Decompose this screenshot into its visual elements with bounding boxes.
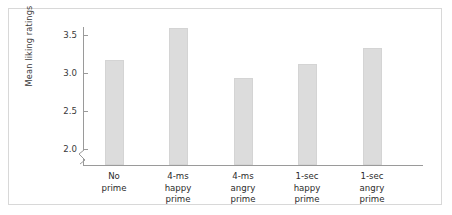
x-axis-line <box>83 165 423 166</box>
x-category-line: prime <box>145 194 211 206</box>
y-tick-mark-2-0 <box>83 149 88 150</box>
x-category-label-4ms-angry-prime: 4-ms angry prime <box>210 171 276 206</box>
bar-4ms-happy-prime[interactable] <box>169 28 188 165</box>
bar-1sec-happy-prime[interactable] <box>298 64 317 165</box>
x-category-line: prime <box>339 194 405 206</box>
x-category-line: prime <box>274 194 340 206</box>
x-category-line: happy <box>145 183 211 195</box>
y-tick-label-2-5: 2.5 <box>51 106 77 116</box>
y-tick-label-2-0: 2.0 <box>51 144 77 154</box>
x-category-label-1sec-happy-prime: 1-sec happy prime <box>274 171 340 206</box>
bar-4ms-angry-prime[interactable] <box>234 78 253 165</box>
y-tick-mark-3-0 <box>83 73 88 74</box>
y-tick-label-3-5: 3.5 <box>51 30 77 40</box>
y-axis-line <box>83 27 84 149</box>
y-tick-mark-3-5 <box>83 35 88 36</box>
plot-area: Mean liking ratings 3.5 3.0 2.5 2.0 No p… <box>9 9 443 206</box>
y-axis-lower-segment <box>83 159 84 166</box>
bar-1sec-angry-prime[interactable] <box>363 48 382 165</box>
bar-no-prime[interactable] <box>105 60 124 165</box>
x-category-line: 4-ms <box>210 171 276 183</box>
y-tick-mark-2-5 <box>83 111 88 112</box>
x-category-line: 4-ms <box>145 171 211 183</box>
axis-break-icon <box>76 148 92 166</box>
y-tick-label-3-0: 3.0 <box>51 68 77 78</box>
x-category-line: angry <box>210 183 276 195</box>
x-category-label-1sec-angry-prime: 1-sec angry prime <box>339 171 405 206</box>
figure-frame: Mean liking ratings 3.5 3.0 2.5 2.0 No p… <box>8 8 442 205</box>
x-category-label-no-prime: No prime <box>81 171 147 194</box>
x-category-line: prime <box>210 194 276 206</box>
y-axis-title: Mean liking ratings <box>24 0 34 106</box>
x-category-line: No <box>81 171 147 183</box>
x-category-line: happy <box>274 183 340 195</box>
x-category-line: prime <box>81 183 147 195</box>
x-category-line: 1-sec <box>339 171 405 183</box>
x-category-label-4ms-happy-prime: 4-ms happy prime <box>145 171 211 206</box>
x-category-line: angry <box>339 183 405 195</box>
x-category-line: 1-sec <box>274 171 340 183</box>
